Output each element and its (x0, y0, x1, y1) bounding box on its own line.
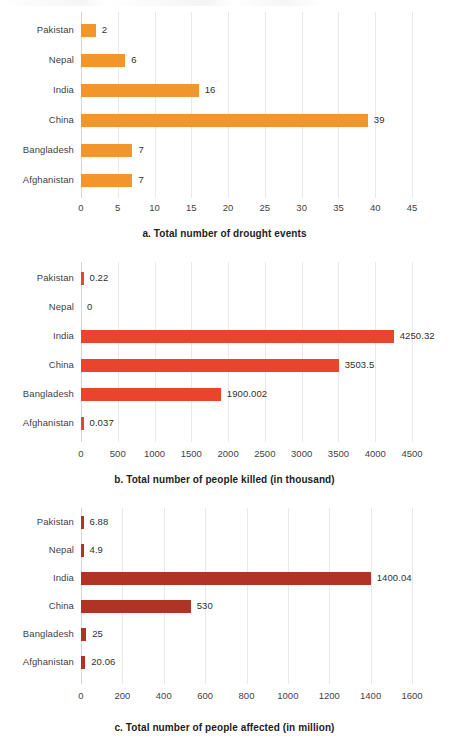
chart-c-plot-area: Pakistan6.88Nepal4.9India1400.04China530… (0, 508, 449, 684)
chart-b-plot-area: Pakistan0.22Nepal0India4250.32China3503.… (0, 262, 449, 442)
bar (81, 24, 96, 37)
x-axis-tick-label: 5 (115, 202, 120, 213)
bar (81, 54, 125, 67)
bar (81, 600, 191, 613)
category-label: Nepal (49, 544, 74, 555)
bar-value-label: 39 (374, 114, 385, 125)
category-label: Afghanistan (23, 656, 74, 667)
category-label: Bangladesh (23, 628, 74, 639)
x-axis-tick-label: 30 (296, 202, 307, 213)
x-axis-tick-label: 3000 (291, 448, 312, 459)
x-axis-tick-label: 0 (78, 448, 83, 459)
bar-value-label: 1400.04 (377, 572, 412, 583)
bar (81, 516, 84, 529)
x-axis-tick-label: 15 (186, 202, 197, 213)
bar (81, 544, 84, 557)
bar (81, 359, 339, 372)
bar (81, 114, 368, 127)
bar-value-label: 2 (102, 24, 107, 35)
chart-b-people-killed: Pakistan0.22Nepal0India4250.32China3503.… (0, 262, 449, 506)
bar-value-label: 6 (131, 54, 136, 65)
x-axis-tick-label: 1000 (277, 690, 298, 701)
category-label: Nepal (49, 54, 74, 65)
bar-value-label: 20.06 (91, 656, 115, 667)
bar-value-label: 0.037 (90, 417, 114, 428)
category-label: Afghanistan (23, 174, 74, 185)
x-axis-tick-label: 500 (110, 448, 126, 459)
bar-value-label: 6.88 (90, 516, 109, 527)
category-label: Pakistan (37, 516, 74, 527)
category-label: India (53, 330, 74, 341)
category-label: China (49, 359, 74, 370)
category-label: Pakistan (37, 24, 74, 35)
category-label: Bangladesh (23, 144, 74, 155)
bar (81, 144, 132, 157)
x-axis-tick-label: 45 (407, 202, 418, 213)
chart-a-x-axis: 051015202530354045 (0, 202, 449, 218)
x-axis-tick-label: 800 (239, 690, 255, 701)
chart-a-caption: a. Total number of drought events (0, 228, 449, 239)
x-axis-tick-label: 25 (260, 202, 271, 213)
x-axis-tick-label: 1000 (144, 448, 165, 459)
x-axis-tick-label: 0 (78, 690, 83, 701)
bar-value-label: 7 (138, 174, 143, 185)
x-axis-tick-label: 4500 (401, 448, 422, 459)
x-axis-tick-label: 1500 (181, 448, 202, 459)
bar-value-label: 1900.002 (227, 388, 267, 399)
category-label: Pakistan (37, 272, 74, 283)
bar-value-label: 0.22 (90, 272, 109, 283)
bar (81, 272, 84, 285)
chart-c-caption: c. Total number of people affected (in m… (0, 722, 449, 733)
bar-value-label: 7 (138, 144, 143, 155)
x-axis-tick-label: 2500 (254, 448, 275, 459)
bar-value-label: 0 (87, 301, 92, 312)
category-label: Afghanistan (23, 417, 74, 428)
x-axis-tick-label: 40 (370, 202, 381, 213)
x-axis-tick-label: 0 (78, 202, 83, 213)
x-axis-tick-label: 1400 (360, 690, 381, 701)
chart-c-x-axis: 02004006008001000120014001600 (0, 690, 449, 706)
chart-c-bars: Pakistan6.88Nepal4.9India1400.04China530… (0, 508, 449, 684)
x-axis-tick-label: 1600 (401, 690, 422, 701)
bar-value-label: 530 (197, 600, 213, 611)
bar-value-label: 3503.5 (345, 359, 375, 370)
x-axis-tick-label: 10 (149, 202, 160, 213)
bar-value-label: 4.9 (90, 544, 104, 555)
category-label: China (49, 114, 74, 125)
bar-value-label: 16 (205, 84, 216, 95)
x-axis-tick-label: 1200 (319, 690, 340, 701)
x-axis-tick-label: 400 (156, 690, 172, 701)
bar (81, 628, 86, 641)
x-axis-tick-label: 3500 (328, 448, 349, 459)
chart-b-x-axis: 050010001500200025003000350040004500 (0, 448, 449, 464)
x-axis-tick-label: 35 (333, 202, 344, 213)
bar (81, 84, 199, 97)
chart-a-drought-events: Pakistan2Nepal6India16China39Bangladesh7… (0, 12, 449, 260)
chart-b-caption: b. Total number of people killed (in tho… (0, 474, 449, 485)
chart-b-bars: Pakistan0.22Nepal0India4250.32China3503.… (0, 262, 449, 442)
chart-a-plot-area: Pakistan2Nepal6India16China39Bangladesh7… (0, 12, 449, 198)
category-label: Nepal (49, 301, 74, 312)
category-label: Bangladesh (23, 388, 74, 399)
bar-value-label: 25 (92, 628, 103, 639)
x-axis-tick-label: 4000 (365, 448, 386, 459)
x-axis-tick-label: 200 (114, 690, 130, 701)
x-axis-tick-label: 20 (223, 202, 234, 213)
category-label: China (49, 600, 74, 611)
figure-page: Pakistan2Nepal6India16China39Bangladesh7… (0, 0, 449, 753)
scan-artifact (0, 0, 449, 6)
bar-value-label: 4250.32 (400, 330, 435, 341)
bar (81, 417, 84, 430)
x-axis-tick-label: 600 (197, 690, 213, 701)
category-label: India (53, 84, 74, 95)
chart-c-people-affected: Pakistan6.88Nepal4.9India1400.04China530… (0, 508, 449, 748)
bar (81, 572, 371, 585)
bar (81, 174, 132, 187)
category-label: India (53, 572, 74, 583)
bar (81, 388, 221, 401)
x-axis-tick-label: 2000 (218, 448, 239, 459)
chart-a-bars: Pakistan2Nepal6India16China39Bangladesh7… (0, 12, 449, 198)
bar (81, 330, 394, 343)
bar (81, 656, 85, 669)
